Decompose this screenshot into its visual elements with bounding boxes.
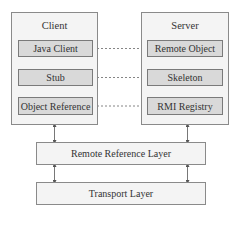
transport-layer-box: Transport Layer xyxy=(36,182,206,205)
remote-reference-layer-box: Remote Reference Layer xyxy=(36,142,206,165)
java-client-box: Java Client xyxy=(18,40,93,57)
remote-object-box: Remote Object xyxy=(147,40,223,57)
skeleton-box: Skeleton xyxy=(147,69,223,86)
server-title: Server xyxy=(142,20,228,31)
client-title: Client xyxy=(12,20,97,31)
rmi-registry-box: RMI Registry xyxy=(147,97,223,115)
object-reference-box: Object Reference xyxy=(18,97,93,115)
stub-box: Stub xyxy=(18,69,93,86)
